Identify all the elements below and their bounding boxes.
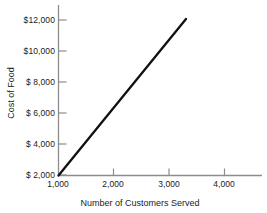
cost-of-food-line-chart: $12,000 $10,000 $ 8,000 $ 6,000 $ 4,000 …: [0, 0, 267, 213]
y-tick-label-4000: $ 4,000: [26, 139, 55, 149]
x-tick-label-2000: 2,000: [93, 179, 133, 189]
y-tick-label-10000: $10,000: [24, 46, 55, 56]
y-axis-title: Cost of Food: [6, 57, 16, 129]
y-tick-label-6000: $ 6,000: [26, 108, 55, 118]
x-tick-label-4000: 4,000: [204, 179, 244, 189]
x-tick-label-1000: 1,000: [38, 179, 78, 189]
y-tick-label-8000: $ 8,000: [26, 77, 55, 87]
x-axis-title: Number of Customers Served: [40, 198, 240, 208]
y-tick-label-12000: $12,000: [24, 15, 55, 25]
x-tick-label-3000: 3,000: [149, 179, 189, 189]
